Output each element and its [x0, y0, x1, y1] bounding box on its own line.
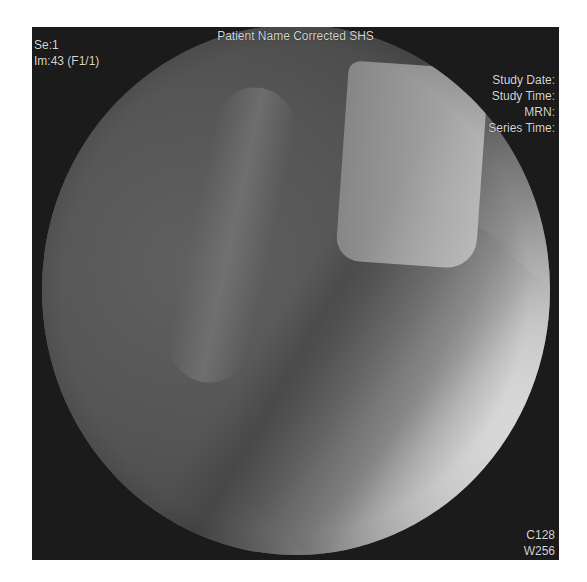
- image-viewport[interactable]: Patient Name Corrected SHS Se:1 Im:43 (F…: [32, 27, 559, 560]
- study-info: Study Date: Study Time: MRN: Series Time…: [488, 72, 555, 136]
- window-level-info: C128 W256: [524, 527, 555, 559]
- series-info: Se:1 Im:43 (F1/1): [34, 37, 99, 69]
- patient-name-label: Patient Name Corrected SHS: [32, 28, 559, 44]
- series-time-label: Series Time:: [488, 120, 555, 136]
- fluoroscopy-image[interactable]: [42, 27, 550, 555]
- series-number: Se:1: [34, 37, 99, 53]
- mrn-label: MRN:: [488, 104, 555, 120]
- image-vignette: [42, 27, 550, 555]
- window-width: W256: [524, 543, 555, 559]
- window-center: C128: [524, 527, 555, 543]
- image-number: Im:43 (F1/1): [34, 53, 99, 69]
- study-time-label: Study Time:: [488, 88, 555, 104]
- study-date-label: Study Date:: [488, 72, 555, 88]
